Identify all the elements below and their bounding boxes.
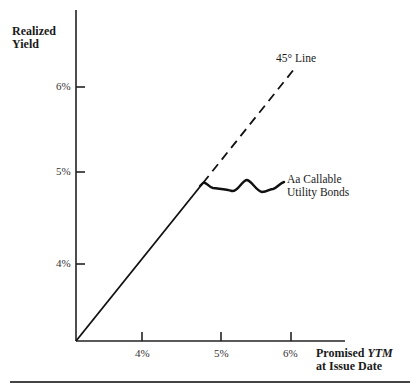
x-tick-label-6: 6% — [283, 348, 298, 359]
y-axis-title-line2: Yield — [12, 38, 56, 51]
x-axis-title-line2: at Issue Date — [316, 360, 393, 373]
x-tick-label-4: 4% — [135, 348, 150, 359]
x-axis-title-ytm: YTM — [367, 346, 392, 360]
y-tick-label-5: 5% — [56, 166, 71, 177]
x-tick-label-5: 5% — [214, 348, 229, 359]
callable-bonds-curve — [200, 180, 284, 192]
annotation-callable-bonds: Aa Callable Utility Bonds — [287, 173, 349, 199]
x-axis-title: Promised YTM at Issue Date — [316, 347, 393, 373]
annotation-45-line: 45° Line — [276, 52, 316, 65]
x-axis-title-promised: Promised — [316, 346, 367, 360]
y-axis-title: Realized Yield — [12, 25, 56, 51]
annotation-callable-line2: Utility Bonds — [287, 186, 349, 199]
y-tick-label-6: 6% — [56, 81, 71, 92]
line-45-solid — [76, 183, 203, 341]
line-45-dashed — [203, 68, 295, 183]
y-tick-label-4: 4% — [56, 258, 71, 269]
bottom-divider — [10, 381, 410, 383]
annotation-callable-line1: Aa Callable — [287, 173, 349, 186]
